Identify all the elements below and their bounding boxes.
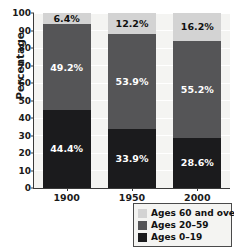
y-tick-label: 50 [18, 96, 31, 106]
y-tick-label: 70 [18, 61, 31, 71]
bar-segment-label: 53.9% [116, 77, 149, 87]
bar-segment-label: 6.4% [53, 14, 79, 24]
bar-segment[interactable]: 6.4% [43, 13, 91, 24]
bar-segment-label: 49.2% [50, 63, 83, 73]
x-tick-mark [132, 188, 133, 191]
legend-item[interactable]: Ages 60 and over [138, 207, 227, 219]
bar-1900[interactable]: 44.4%49.2%6.4% [43, 13, 91, 188]
y-tick-mark [31, 135, 34, 136]
legend-item[interactable]: Ages 20–59 [138, 219, 227, 231]
y-tick-label: 40 [18, 113, 31, 123]
y-tick-label: 90 [18, 26, 31, 36]
bar-segment-label: 16.2% [181, 22, 214, 32]
bar-segment[interactable]: 44.4% [43, 110, 91, 188]
y-tick-mark [31, 48, 34, 49]
legend-item-label: Ages 60 and over [151, 209, 234, 218]
x-tick-label: 2000 [184, 192, 210, 203]
x-tick-label: 1950 [119, 192, 145, 203]
y-tick-mark [31, 153, 34, 154]
legend-item-label: Ages 20–59 [151, 221, 209, 230]
y-tick-label: 100 [12, 8, 31, 18]
bar-segment[interactable]: 33.9% [108, 129, 156, 188]
bar-segment-label: 28.6% [181, 158, 214, 168]
x-tick-mark [197, 188, 198, 191]
bar-segment[interactable]: 49.2% [43, 24, 91, 110]
y-tick-mark [31, 13, 34, 14]
legend-swatch-icon [138, 221, 147, 230]
legend-item[interactable]: Ages 0–19 [138, 231, 227, 243]
y-tick-mark [31, 118, 34, 119]
legend-item-label: Ages 0–19 [151, 233, 202, 242]
y-tick-mark [31, 188, 34, 189]
x-tick-label: 1900 [53, 192, 79, 203]
y-tick-mark [31, 30, 34, 31]
legend-swatch-icon [138, 233, 147, 242]
y-tick-label: 20 [18, 148, 31, 158]
plot-area: 010203040506070809010044.4%49.2%6.4%1900… [33, 13, 230, 189]
bar-segment-label: 44.4% [50, 144, 83, 154]
y-tick-label: 0 [25, 183, 31, 193]
bar-segment-label: 33.9% [116, 154, 149, 164]
bar-segment[interactable]: 53.9% [108, 34, 156, 128]
y-tick-label: 30 [18, 131, 31, 141]
chart-legend: Ages 60 and overAges 20–59Ages 0–19 [133, 203, 232, 247]
bar-segment[interactable]: 28.6% [173, 138, 221, 188]
x-tick-mark [67, 188, 68, 191]
bar-segment[interactable]: 55.2% [173, 41, 221, 138]
y-tick-mark [31, 100, 34, 101]
stacked-bar-chart: Percentage 010203040506070809010044.4%49… [0, 0, 234, 250]
y-tick-label: 60 [18, 78, 31, 88]
bar-1950[interactable]: 33.9%53.9%12.2% [108, 13, 156, 188]
y-tick-label: 10 [18, 166, 31, 176]
plot-inner: 010203040506070809010044.4%49.2%6.4%1900… [34, 13, 230, 188]
bar-segment-label: 12.2% [116, 19, 149, 29]
y-tick-mark [31, 65, 34, 66]
bar-segment[interactable]: 12.2% [108, 13, 156, 34]
y-tick-label: 80 [18, 43, 31, 53]
bar-segment-label: 55.2% [181, 85, 214, 95]
bar-2000[interactable]: 28.6%55.2%16.2% [173, 13, 221, 188]
legend-swatch-icon [138, 209, 147, 218]
y-tick-mark [31, 170, 34, 171]
y-tick-mark [31, 83, 34, 84]
bar-segment[interactable]: 16.2% [173, 13, 221, 41]
